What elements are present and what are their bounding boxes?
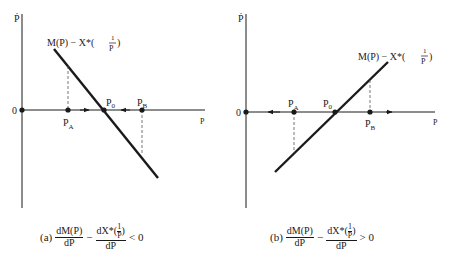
curve-label-frac-den: P: [421, 57, 426, 66]
curve-label-frac-num: 1: [423, 47, 427, 55]
numerator: dX*( 1 P ): [96, 223, 126, 241]
numerator-post: ): [352, 226, 355, 237]
denominator: dP: [336, 241, 347, 252]
derivative-m: dM(P) dP: [55, 226, 83, 248]
label-pb: PB: [137, 97, 148, 110]
derivative-m: dM(P) dP: [286, 226, 314, 248]
denominator: dP: [64, 238, 75, 249]
panel-a: Ṗ P 0 PA P0 PB M(P) − X*( 1 P ): [12, 13, 205, 208]
label-p0: P0: [106, 97, 116, 110]
point-pb: [367, 109, 372, 114]
point-p0: [101, 107, 106, 112]
denominator: dP: [105, 241, 116, 252]
curve-label: M(P) − X*(: [47, 37, 95, 49]
caption-b: (b) dM(P) dP − dX*( 1 P ) dP > 0: [270, 223, 374, 252]
curve-label: M(P) − X*(: [358, 51, 406, 63]
curve-line: [54, 49, 158, 178]
label-pa: PA: [63, 117, 74, 131]
origin-dot: [19, 107, 24, 112]
numerator-pre: dX*(: [97, 226, 118, 237]
curve-line: [275, 62, 388, 172]
caption-tag: (a): [40, 231, 52, 243]
derivative-x: dX*( 1 P ) dP: [326, 223, 356, 252]
derivative-x: dX*( 1 P ) dP: [96, 223, 126, 252]
numerator: dX*( 1 P ): [326, 223, 356, 241]
x-axis-label: P: [433, 118, 438, 127]
panel-b: Ṗ P 0 PA P0 PB M(P) − X*( 1 P ): [236, 13, 438, 208]
curve-label-frac-den: P: [109, 44, 114, 53]
caption-a: (a) dM(P) dP − dX*( 1 P ) dP < 0: [40, 223, 143, 252]
label-pb: PB: [365, 118, 376, 132]
relation: > 0: [360, 231, 374, 243]
curve-label-close: ): [429, 51, 432, 63]
denominator: dP: [295, 238, 306, 249]
point-pa: [65, 107, 70, 112]
label-p0: P0: [323, 98, 333, 111]
curve-label-close: ): [117, 37, 120, 49]
minus-sign: −: [317, 231, 323, 243]
point-p0: [332, 109, 337, 114]
label-pa: PA: [288, 98, 299, 112]
relation: < 0: [129, 231, 143, 243]
origin-label: 0: [12, 105, 17, 116]
curve-label-frac-num: 1: [111, 34, 115, 42]
caption-tag: (b): [270, 231, 283, 243]
minus-sign: −: [86, 231, 92, 243]
x-axis-label: P: [200, 117, 205, 126]
y-axis-label: Ṗ: [238, 13, 244, 24]
origin-label: 0: [236, 107, 241, 118]
numerator-pre: dX*(: [327, 226, 348, 237]
origin-dot: [243, 109, 248, 114]
numerator-post: ): [122, 226, 125, 237]
y-axis-label: Ṗ: [14, 13, 20, 24]
